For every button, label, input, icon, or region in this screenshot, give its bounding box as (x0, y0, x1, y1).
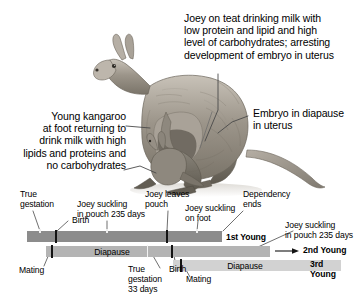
timeline-bar-second-young (46, 246, 270, 257)
label-second-young: 2nd Young (303, 246, 363, 256)
tick-true-gestation-start (39, 229, 41, 233)
tick-true-gestation-33 (147, 245, 148, 257)
tick-birth-first (55, 230, 57, 243)
tick-mating-first (51, 245, 53, 258)
label-true-gestation-33-days: True gestation 33 days (128, 264, 174, 294)
label-first-young: 1st Young (226, 232, 288, 242)
callout-embryo-in-diapause: Embryo in diapause in uterus (253, 107, 361, 131)
label-mating-second: Mating (186, 274, 234, 284)
tick-joey-leaves-pouch (166, 230, 168, 243)
tick-on-foot-mid (196, 229, 198, 233)
callout-young-at-foot: Young kangaroo at foot returning to drin… (4, 110, 126, 171)
label-birth-second: Birth (169, 264, 201, 274)
label-third-young: 3rd Young (310, 260, 362, 279)
label-diapause-first: Diapause (82, 247, 142, 257)
label-mating-first: Mating (19, 265, 67, 275)
tick-pouch-mid (106, 229, 108, 233)
label-true-gestation: True gestation (20, 189, 80, 209)
label-dependency-ends: Dependency ends (243, 189, 305, 209)
label-diapause-second: Diapause (215, 261, 275, 271)
callout-joey-on-teat: Joey on teat drinking milk with low prot… (184, 12, 362, 61)
tick-birth-second (171, 245, 173, 258)
label-joey-suckling-in-pouch-second: Joey suckling in pouch 235 days (285, 220, 363, 240)
